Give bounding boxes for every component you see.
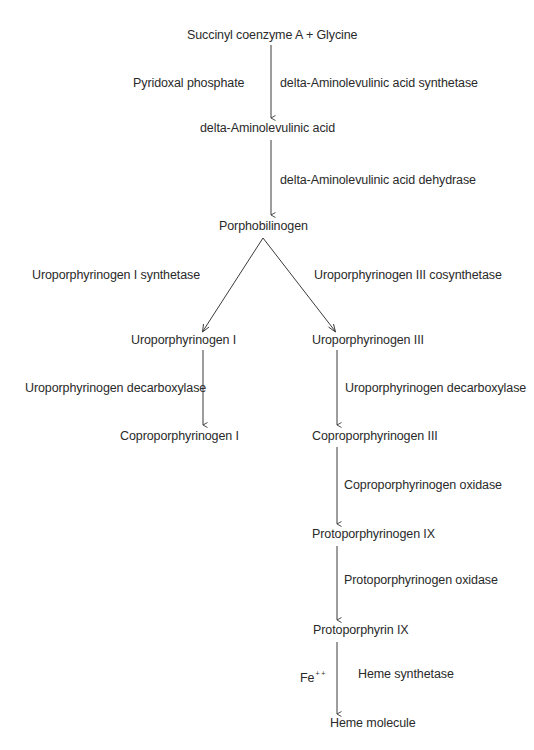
node-delta-aminolevulinic-acid: delta-Aminolevulinic acid bbox=[200, 121, 335, 135]
enzyme-uroporphyrinogen-iii-cosynthetase: Uroporphyrinogen III cosynthetase bbox=[314, 268, 502, 282]
arrow-pbg-to-uro3 bbox=[263, 238, 335, 331]
node-uroporphyrinogen-i: Uroporphyrinogen I bbox=[131, 333, 236, 347]
enzyme-ala-synthetase: delta-Aminolevulinic acid synthetase bbox=[280, 76, 478, 90]
cofactor-pyridoxal-phosphate: Pyridoxal phosphate bbox=[133, 76, 244, 90]
enzyme-ala-dehydrase: delta-Aminolevulinic acid dehydrase bbox=[280, 173, 476, 187]
node-coproporphyrinogen-i: Coproporphyrinogen I bbox=[120, 429, 239, 443]
node-protoporphyrin-ix: Protoporphyrin IX bbox=[313, 623, 409, 637]
node-succinyl-coa-glycine: Succinyl coenzyme A + Glycine bbox=[187, 28, 357, 42]
node-protoporphyrinogen-ix: Protoporphyrinogen IX bbox=[312, 527, 435, 541]
arrow-pbg-to-uro1 bbox=[203, 238, 263, 331]
node-uroporphyrinogen-iii: Uroporphyrinogen III bbox=[312, 333, 424, 347]
enzyme-coproporphyrinogen-oxidase: Coproporphyrinogen oxidase bbox=[344, 478, 502, 492]
pathway-arrows bbox=[0, 0, 534, 750]
cofactor-fe: Fe+ + bbox=[300, 667, 325, 685]
fe-charge: + + bbox=[315, 670, 325, 677]
enzyme-protoporphyrinogen-oxidase: Protoporphyrinogen oxidase bbox=[344, 573, 498, 587]
enzyme-uroporphyrinogen-decarboxylase-right: Uroporphyrinogen decarboxylase bbox=[345, 381, 526, 395]
node-heme-molecule: Heme molecule bbox=[330, 716, 416, 730]
enzyme-uroporphyrinogen-i-synthetase: Uroporphyrinogen I synthetase bbox=[32, 268, 200, 282]
arrowhead-uro1 bbox=[203, 324, 210, 332]
node-coproporphyrinogen-iii: Coproporphyrinogen III bbox=[312, 429, 438, 443]
enzyme-heme-synthetase: Heme synthetase bbox=[358, 667, 454, 681]
fe-symbol: Fe bbox=[300, 671, 314, 685]
node-porphobilinogen: Porphobilinogen bbox=[219, 219, 308, 233]
arrowhead-uro3 bbox=[329, 324, 336, 332]
enzyme-uroporphyrinogen-decarboxylase-left: Uroporphyrinogen decarboxylase bbox=[25, 381, 206, 395]
